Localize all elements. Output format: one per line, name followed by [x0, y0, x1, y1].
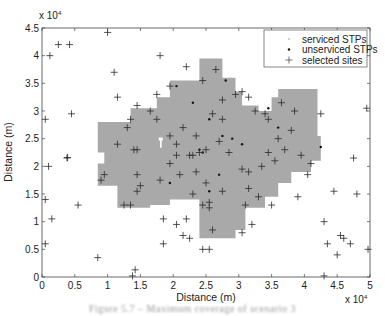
- y-tick-label: 0: [33, 272, 39, 283]
- y-tick-label: 4: [33, 50, 39, 61]
- x-tick-label: 4.5: [330, 280, 344, 291]
- unserviced-stp-point: [175, 85, 177, 87]
- unserviced-stp-point: [208, 190, 210, 192]
- y-tick-label: 2: [33, 161, 39, 172]
- y-tick-label: 1.5: [25, 189, 39, 200]
- y-tick-label: 4.5: [25, 23, 39, 34]
- x-tick-label: 0: [39, 280, 45, 291]
- unserviced-stp-point: [208, 118, 210, 120]
- unserviced-stp-point: [224, 79, 226, 81]
- x-tick-label: 2: [170, 280, 176, 291]
- x-tick-label: 5: [367, 280, 373, 291]
- unserviced-stp-point: [231, 137, 233, 139]
- x-axis-label: Distance (m): [176, 291, 236, 303]
- y-tick-label: 2.5: [25, 133, 39, 144]
- y-tick-label: 3: [33, 106, 39, 117]
- unserviced-stp-point: [241, 143, 243, 145]
- region-hole: [160, 140, 162, 148]
- legend-selected-label: selected sites: [302, 55, 363, 66]
- unserviced-stp-legend-icon: [288, 48, 290, 50]
- x-tick-label: 1.5: [133, 280, 147, 291]
- unserviced-stp-point: [169, 182, 171, 184]
- y-tick-label: 0.5: [25, 244, 39, 255]
- scatter-chart: 00.511.522.533.544.55 00.511.522.533.544…: [0, 0, 385, 316]
- unserviced-stp-point: [320, 146, 322, 148]
- unserviced-stp-point: [221, 135, 223, 137]
- unserviced-stp-point: [277, 126, 279, 128]
- x-tick-label: 0.5: [68, 280, 82, 291]
- x-tick-label: 2.5: [199, 280, 213, 291]
- legend-unserviced-label: unserviced STPs: [302, 44, 378, 55]
- legend-serviced-label: serviced STPs: [302, 34, 366, 45]
- x-tick-label: 1: [105, 280, 111, 291]
- y-tick-label: 3.5: [25, 78, 39, 89]
- unserviced-stp-point: [267, 107, 269, 109]
- figure-caption: Figure 5.7 – Maximum coverage of scenari…: [0, 303, 385, 314]
- y-multiplier: x 104: [39, 10, 62, 21]
- y-axis-label: Distance (m): [2, 122, 14, 182]
- x-tick-label: 3.5: [265, 280, 279, 291]
- unserviced-stp-point: [218, 173, 220, 175]
- serviced-stp-legend-icon: [288, 38, 290, 40]
- unserviced-stp-point: [192, 102, 194, 104]
- y-tick-label: 1: [33, 216, 39, 227]
- legend: serviced STPs unserviced STPs selected s…: [264, 30, 378, 67]
- x-tick-label: 4: [302, 280, 308, 291]
- x-tick-label: 3: [236, 280, 242, 291]
